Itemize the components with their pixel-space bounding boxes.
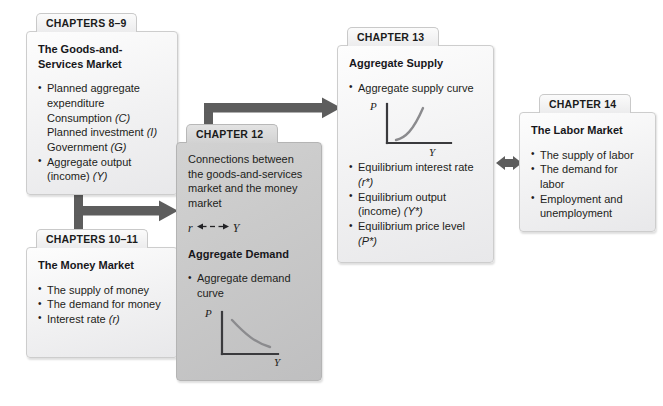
card-tab-chapter-12: CHAPTER 12 bbox=[186, 124, 278, 143]
formula-left-symbol: r bbox=[188, 221, 193, 236]
list-item: Aggregate demand curve bbox=[188, 271, 310, 300]
list-item: Aggregate supply curve bbox=[349, 81, 482, 96]
card-body-chapter-14: The Labor Market The supply of labor The… bbox=[519, 112, 656, 232]
bullet-main-text: Aggregate output (income) (Y) bbox=[47, 156, 131, 183]
card-chapter-13[interactable]: CHAPTER 13 Aggregate Supply Aggregate su… bbox=[337, 27, 494, 263]
card-tab-chapter-13: CHAPTER 13 bbox=[347, 27, 439, 46]
list-item: Planned aggregate expenditure Consumptio… bbox=[38, 81, 166, 155]
card-body-chapter-12: Connections between the goods-and-servic… bbox=[176, 142, 322, 381]
list-item: The supply of labor bbox=[531, 148, 644, 163]
bullet-list-bottom: Equilibrium interest rate (r*) Equilibri… bbox=[349, 160, 482, 248]
bullet-sub-text: Government (G) bbox=[47, 140, 166, 155]
list-item: Employment and unemployment bbox=[531, 192, 644, 221]
list-item: Equilibrium interest rate (r*) bbox=[349, 160, 482, 189]
chart-y-axis-label: P bbox=[204, 307, 212, 319]
card-chapters-10-11[interactable]: CHAPTERS 10–11 The Money Market The supp… bbox=[26, 229, 178, 358]
card-title: The Labor Market bbox=[531, 123, 644, 138]
formula-right-symbol: Y bbox=[233, 221, 240, 236]
list-item: Aggregate output (income) (Y) bbox=[38, 155, 166, 184]
list-item: The supply of money bbox=[38, 283, 166, 298]
bullet-main-text: Planned aggregate expenditure bbox=[47, 82, 140, 109]
card-title: Aggregate Supply bbox=[349, 56, 482, 71]
card-tab-label: CHAPTERS 8–9 bbox=[46, 18, 127, 29]
card-tab-chapters-8-9: CHAPTERS 8–9 bbox=[36, 13, 137, 32]
bullet-list: The supply of money The demand for money… bbox=[38, 283, 166, 327]
card-tab-label: CHAPTERS 10–11 bbox=[46, 234, 138, 245]
card-tab-chapters-10-11: CHAPTERS 10–11 bbox=[36, 229, 148, 248]
card-description: Connections between the goods-and-servic… bbox=[188, 152, 310, 211]
card-tab-label: CHAPTER 12 bbox=[196, 129, 263, 140]
card-body-chapters-8-9: The Goods-and-Services Market Planned ag… bbox=[26, 31, 178, 195]
card-chapters-8-9[interactable]: CHAPTERS 8–9 The Goods-and-Services Mark… bbox=[26, 13, 178, 195]
list-item: Equilibrium output (income) (Y*) bbox=[349, 190, 482, 219]
double-arrow-icon bbox=[196, 221, 230, 236]
card-body-chapters-10-11: The Money Market The supply of money The… bbox=[26, 247, 178, 358]
chart-y-axis-label: P bbox=[369, 100, 377, 112]
list-item: The demand for money bbox=[38, 297, 166, 312]
bullet-list: The supply of labor The demand for labor… bbox=[531, 148, 644, 222]
card-tab-label: CHAPTER 14 bbox=[549, 99, 616, 110]
card-chapter-14[interactable]: CHAPTER 14 The Labor Market The supply o… bbox=[519, 94, 656, 232]
bullet-list-top: Aggregate supply curve bbox=[349, 81, 482, 96]
bullet-sub-text: Planned investment (I) bbox=[47, 125, 166, 140]
diagram-canvas: CHAPTERS 8–9 The Goods-and-Services Mark… bbox=[0, 0, 663, 406]
card-tab-chapter-14: CHAPTER 14 bbox=[539, 94, 631, 113]
bullet-sub-text: Consumption (C) bbox=[47, 111, 166, 126]
chart-x-axis-label: Y bbox=[429, 146, 437, 158]
bullet-list: Aggregate demand curve bbox=[188, 271, 310, 300]
list-item: Equilibrium price level (P*) bbox=[349, 219, 482, 248]
formula-r-y: r Y bbox=[188, 221, 310, 236]
chart-x-axis-label: Y bbox=[274, 356, 282, 368]
aggregate-supply-chart: P Y bbox=[367, 98, 482, 158]
card-title: The Goods-and-Services Market bbox=[38, 42, 166, 71]
list-item: Interest rate (r) bbox=[38, 312, 166, 327]
aggregate-demand-chart: P Y bbox=[202, 304, 310, 368]
card-body-chapter-13: Aggregate Supply Aggregate supply curve … bbox=[337, 45, 494, 263]
bullet-list: Planned aggregate expenditure Consumptio… bbox=[38, 81, 166, 184]
card-subtitle: Aggregate Demand bbox=[188, 247, 310, 262]
card-title: The Money Market bbox=[38, 258, 166, 273]
card-chapter-12[interactable]: CHAPTER 12 Connections between the goods… bbox=[176, 124, 322, 381]
list-item: The demand for labor bbox=[531, 162, 644, 191]
card-tab-label: CHAPTER 13 bbox=[357, 32, 424, 43]
